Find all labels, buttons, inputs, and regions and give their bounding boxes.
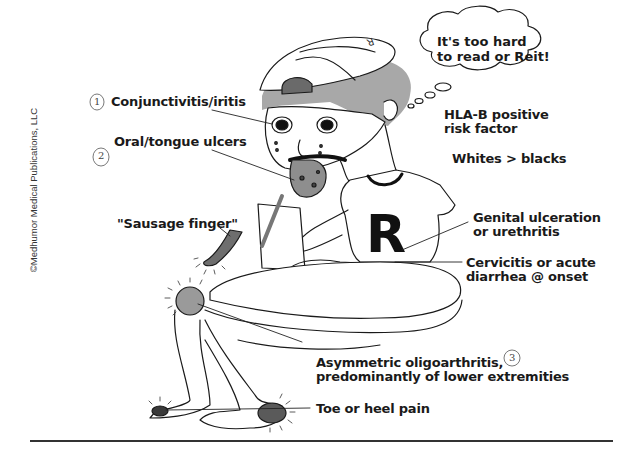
genital-line-1: Genital ulceration bbox=[473, 211, 601, 225]
bottom-divider bbox=[30, 440, 613, 442]
label-oligoarthritis: Asymmetric oligoarthritis, predominantly… bbox=[316, 356, 569, 384]
oligoarthritis-line-2: predominantly of lower extremities bbox=[316, 370, 569, 384]
cervicitis-line-2: diarrhea @ onset bbox=[466, 270, 596, 284]
oligoarthritis-line-1: Asymmetric oligoarthritis, bbox=[316, 356, 569, 370]
label-sausage-finger: "Sausage finger" bbox=[117, 217, 238, 231]
label-conjunctivitis: Conjunctivitis/iritis bbox=[111, 95, 246, 109]
hla-b-line-1: HLA-B positive bbox=[444, 108, 549, 122]
cervicitis-line-1: Cervicitis or acute bbox=[466, 256, 596, 270]
hla-b-line-2: risk factor bbox=[444, 122, 549, 136]
label-toe-heel-pain: Toe or heel pain bbox=[316, 402, 430, 416]
label-hla-b: HLA-B positive risk factor bbox=[444, 108, 549, 136]
genital-line-2: or urethritis bbox=[473, 225, 601, 239]
label-genital-ulceration: Genital ulceration or urethritis bbox=[473, 211, 601, 239]
label-oral-ulcers: Oral/tongue ulcers bbox=[114, 135, 247, 149]
label-cervicitis: Cervicitis or acute diarrhea @ onset bbox=[466, 256, 596, 284]
label-demographics: Whites > blacks bbox=[452, 152, 566, 166]
